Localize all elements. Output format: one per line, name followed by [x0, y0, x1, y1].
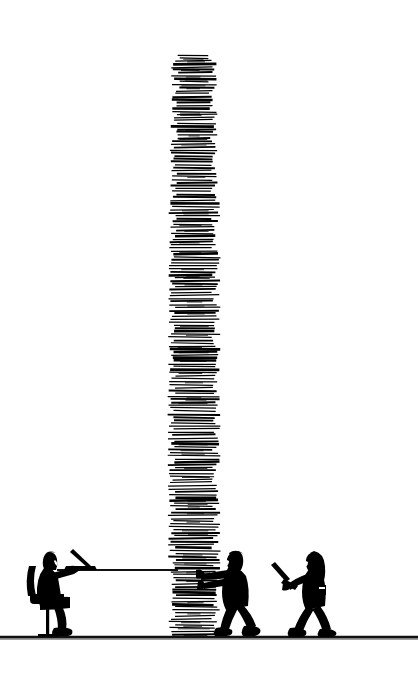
paper-sheet	[169, 500, 218, 501]
paper-sheet	[169, 372, 216, 373]
paper-sheet	[180, 58, 209, 59]
paper-sheet	[175, 236, 215, 237]
paper-sheet	[170, 453, 218, 454]
paper-sheet	[172, 634, 218, 635]
paper-sheet	[178, 138, 211, 139]
pushing-head	[227, 551, 243, 570]
paper-sheet	[172, 604, 213, 605]
paper-sheet	[175, 615, 215, 616]
paper-sheet	[174, 410, 216, 411]
ground	[0, 637, 418, 639]
paper-sheet	[176, 91, 212, 92]
paper-sheet	[172, 99, 213, 100]
paper-sheet	[174, 257, 221, 258]
paper-sheet	[174, 147, 216, 148]
paper-sheet	[170, 627, 215, 628]
paper-sheet	[170, 295, 219, 296]
paper-sheet	[171, 571, 216, 572]
paper-sheet	[175, 606, 217, 607]
paper-sheet	[176, 230, 214, 231]
paper-sheet	[172, 592, 215, 593]
paper-sheet	[168, 557, 216, 558]
paper-sheet	[172, 112, 216, 113]
paper-sheet	[170, 524, 220, 525]
paper-sheet	[171, 67, 212, 68]
paper-sheet	[173, 598, 215, 599]
paper-sheet	[170, 349, 220, 350]
paper-sheet	[170, 550, 221, 551]
stool-back	[27, 566, 36, 596]
paper-sheet	[174, 351, 218, 352]
paper-sheet	[175, 165, 211, 166]
seated-shoe	[52, 627, 73, 636]
paper-sheet	[172, 284, 218, 285]
paper-sheet	[168, 485, 217, 486]
paper-sheet	[175, 547, 211, 548]
paper-sheet	[171, 292, 211, 293]
paper-sheet	[170, 200, 215, 201]
paper-sheet	[174, 156, 212, 157]
pushing-front-shoe	[214, 627, 233, 636]
paper-sheet	[174, 462, 219, 463]
paper-sheet	[169, 538, 214, 539]
pushing-back-shoe	[242, 625, 261, 636]
paper-sheet	[172, 206, 219, 207]
scene-svg	[0, 0, 418, 687]
paper-sheet	[172, 180, 212, 181]
paper-sheet	[169, 213, 218, 214]
paper-sheet	[175, 387, 213, 388]
paper-sheet	[168, 337, 211, 338]
paper-sheet	[178, 72, 212, 73]
paper-sheet	[171, 343, 214, 344]
seated-laptop-base	[64, 566, 97, 570]
woman-bag-flap	[319, 587, 325, 589]
paper-sheet	[171, 619, 211, 620]
paper-sheet	[177, 114, 217, 115]
illustration-canvas: Tall stack of paper with three figures b…	[0, 0, 418, 687]
woman-back-leg	[312, 606, 331, 632]
paper-sheet	[169, 526, 219, 527]
paper-sheet	[175, 60, 211, 61]
paper-sheet	[170, 476, 214, 477]
paper-sheet	[169, 489, 216, 490]
paper-sheet	[173, 417, 214, 418]
woman-back-shoe	[318, 628, 337, 637]
woman-bag	[318, 585, 326, 595]
paper-sheet	[174, 117, 215, 118]
paper-sheet	[174, 565, 213, 566]
paper-sheet	[173, 168, 215, 169]
paper-sheet	[175, 491, 218, 492]
paper-sheet	[170, 272, 215, 273]
paper-sheet	[174, 447, 216, 448]
paper-sheet	[171, 423, 215, 424]
paper-sheet	[169, 275, 213, 276]
paper-sheet	[171, 152, 215, 153]
paper-sheet	[170, 385, 214, 386]
paper-sheet	[171, 443, 219, 444]
paper-sheet	[169, 391, 217, 392]
paper-sheet	[172, 434, 215, 435]
seated-laptop-screen	[70, 549, 91, 568]
paper-sheet	[170, 506, 212, 507]
paper-sheet	[175, 375, 215, 376]
paper-sheet	[172, 97, 211, 98]
paper-sheet	[173, 253, 218, 254]
paper-sheet	[171, 355, 218, 356]
paper-sheet	[174, 119, 213, 120]
paper-sheet	[170, 280, 220, 281]
paper-sheet	[180, 81, 209, 82]
paper-stack	[168, 55, 221, 635]
paper-sheet	[172, 176, 216, 177]
paper-sheet	[168, 544, 214, 545]
paper-sheet	[173, 521, 213, 522]
paper-sheet	[170, 407, 216, 408]
seated-arm	[52, 569, 74, 580]
paper-sheet	[171, 378, 214, 379]
paper-sheet	[169, 289, 215, 290]
seated-shin	[54, 606, 67, 630]
paper-sheet	[177, 123, 216, 124]
figure-seated-worker	[27, 549, 97, 637]
paper-sheet	[168, 464, 217, 465]
paper-sheet	[173, 479, 213, 480]
paper-sheet	[175, 277, 215, 278]
